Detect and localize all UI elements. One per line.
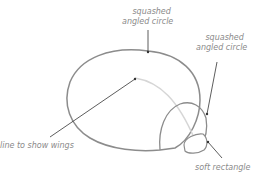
label-head: squashed angled circle xyxy=(196,33,247,53)
label-head-line1: squashed xyxy=(196,33,247,43)
label-body-line1: squashed xyxy=(128,7,173,17)
leader-head xyxy=(207,62,217,114)
label-wings: line to show wings xyxy=(0,141,74,151)
wing-line xyxy=(135,78,195,140)
label-beak: soft rectangle xyxy=(195,163,251,173)
label-body-line2: angled circle xyxy=(122,17,173,27)
label-body: squashed angled circle xyxy=(128,7,173,27)
body-circle xyxy=(67,50,200,151)
leader-beak xyxy=(208,142,222,158)
label-head-line2: angled circle xyxy=(196,43,247,53)
leader-wings xyxy=(50,79,135,137)
